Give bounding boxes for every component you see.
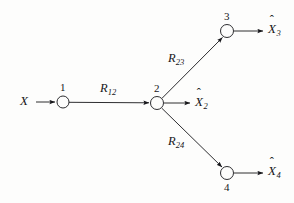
node-3-circle[interactable] bbox=[221, 25, 234, 38]
rate-label-r12: R12 bbox=[100, 82, 116, 95]
node-1-label: 1 bbox=[60, 82, 66, 93]
node-4-label: 4 bbox=[224, 182, 230, 193]
node-2-label: 2 bbox=[154, 83, 160, 94]
rate-label-r24: R24 bbox=[168, 135, 184, 148]
edge-node1-to-node2 bbox=[69, 102, 149, 103]
node-1-circle[interactable] bbox=[57, 96, 69, 108]
rate-label-r23: R23 bbox=[168, 52, 184, 65]
node-3-label: 3 bbox=[224, 11, 230, 22]
xhat2-glyph: ˆX bbox=[195, 95, 203, 108]
figure-canvas: X 1 2 3 4 R12 R23 R24 ˆX2 ˆX3 ˆX4 bbox=[0, 0, 294, 203]
edge-node2-to-node3 bbox=[162, 38, 223, 99]
xhat4-glyph: ˆX bbox=[268, 164, 276, 177]
network-diagram-graphic bbox=[0, 0, 294, 203]
source-label-x: X bbox=[20, 94, 28, 107]
xhat3-glyph: ˆX bbox=[268, 22, 276, 35]
output-label-xhat3: ˆX3 bbox=[268, 22, 280, 35]
node-4-circle[interactable] bbox=[221, 167, 234, 180]
node-2-circle[interactable] bbox=[151, 97, 164, 110]
output-label-xhat2: ˆX2 bbox=[195, 95, 207, 108]
output-label-xhat4: ˆX4 bbox=[268, 164, 280, 177]
